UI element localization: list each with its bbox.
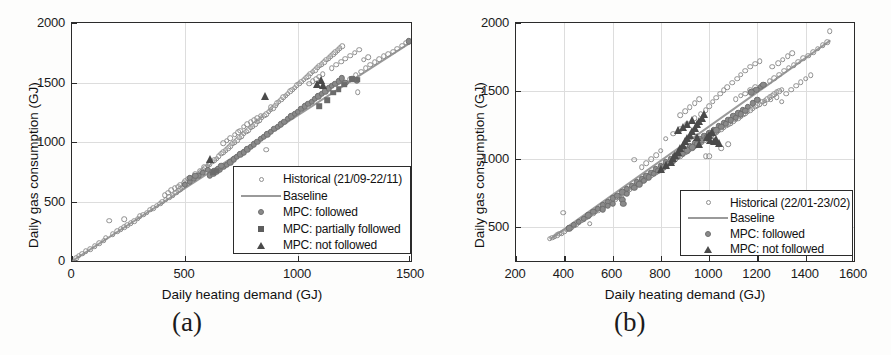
data-point-open-circle: [243, 129, 249, 135]
x-tick-label: 1600: [839, 266, 867, 281]
data-point-open-circle: [235, 130, 241, 136]
data-point-open-circle: [329, 65, 335, 71]
data-point-filled-circle: [711, 127, 717, 133]
data-point-open-circle: [639, 164, 645, 170]
data-point-filled-triangle: [715, 139, 723, 147]
legend-symbol: [239, 171, 283, 188]
data-point-open-circle: [285, 91, 291, 97]
data-point-filled-circle: [600, 206, 606, 212]
data-point-open-circle: [361, 57, 367, 63]
line-icon: [241, 195, 281, 197]
grid-line-vertical: [185, 23, 186, 261]
legend-row: MPC: followed: [686, 226, 846, 242]
line-icon: [688, 217, 728, 219]
x-tick: [661, 256, 662, 261]
data-point-filled-circle: [740, 107, 746, 113]
data-point-open-circle: [198, 169, 204, 175]
grid-line-horizontal: [72, 83, 411, 84]
data-point-open-circle: [323, 57, 329, 63]
grid-line-vertical: [613, 23, 614, 261]
data-point-open-circle: [721, 125, 727, 131]
data-point-open-circle: [236, 135, 242, 141]
data-point-open-circle: [227, 143, 233, 149]
y-tick: [516, 159, 521, 160]
data-point-filled-circle: [677, 150, 683, 156]
data-point-open-circle: [641, 177, 647, 183]
data-point-open-circle: [268, 107, 274, 113]
data-point-open-circle: [276, 99, 282, 105]
data-point-open-circle: [764, 96, 770, 102]
data-point-open-circle: [677, 113, 683, 119]
y-tick-label: 1000: [469, 151, 509, 166]
x-tick: [185, 256, 186, 261]
data-point-open-circle: [250, 123, 256, 129]
legend-label: Baseline: [730, 211, 774, 225]
data-point-open-circle: [165, 190, 171, 196]
data-point-filled-circle: [732, 114, 738, 120]
data-point-open-circle: [699, 139, 705, 145]
data-point-open-circle: [259, 115, 265, 121]
panel-b: Daily gas consumption (GJ) Daily heating…: [446, 0, 891, 355]
data-point-filled-circle: [745, 103, 751, 109]
y-tick: [72, 23, 77, 24]
data-point-filled-triangle: [674, 126, 682, 134]
data-point-open-circle: [244, 121, 250, 127]
data-point-open-circle: [627, 187, 633, 193]
data-point-open-circle: [598, 206, 604, 212]
y-tick: [72, 142, 77, 143]
data-point-filled-circle: [672, 152, 678, 158]
data-point-filled-triangle: [683, 120, 691, 128]
data-point-open-circle: [634, 182, 640, 188]
data-point-open-circle: [723, 123, 729, 129]
x-tick-label: 600: [601, 266, 622, 281]
data-point-open-circle: [743, 68, 749, 74]
grid-line-vertical: [564, 23, 565, 261]
data-point-open-circle: [716, 128, 722, 134]
filled-triangle-icon: [257, 242, 265, 249]
data-point-open-circle: [790, 50, 796, 56]
x-tick-label: 1500: [396, 266, 424, 281]
data-point-open-circle: [317, 74, 323, 80]
data-point-open-circle: [762, 100, 768, 106]
legend-row: MPC: not followed: [239, 237, 404, 254]
data-point-open-circle: [257, 117, 263, 123]
data-point-open-circle: [728, 120, 734, 126]
data-point-open-circle: [270, 105, 276, 111]
data-point-open-circle: [121, 217, 127, 223]
y-tick-label: 0: [25, 253, 65, 268]
data-point-open-circle: [221, 149, 227, 155]
data-point-open-circle: [241, 131, 247, 137]
data-point-filled-circle: [636, 181, 642, 187]
data-point-open-circle: [312, 67, 318, 73]
panel-a: Daily gas consumption (GJ) Daily heating…: [0, 0, 446, 355]
figure-container: Daily gas consumption (GJ) Daily heating…: [0, 0, 891, 355]
data-point-filled-circle: [619, 197, 625, 203]
data-point-open-circle: [261, 113, 267, 119]
y-tick: [72, 202, 77, 203]
data-point-filled-circle: [687, 143, 693, 149]
data-point-open-circle: [283, 93, 289, 99]
data-point-open-circle: [733, 117, 739, 123]
data-point-open-circle: [209, 159, 215, 165]
data-point-filled-circle: [713, 127, 719, 133]
data-point-open-circle: [347, 53, 353, 59]
data-point-open-circle: [793, 83, 799, 89]
data-point-open-circle: [698, 111, 704, 117]
data-point-open-circle: [774, 94, 780, 100]
data-point-open-circle: [653, 169, 659, 175]
data-point-open-circle: [762, 98, 768, 104]
data-point-open-circle: [251, 117, 257, 123]
data-point-open-circle: [587, 221, 593, 227]
open-circle-icon: [259, 177, 264, 182]
data-point-filled-circle: [737, 111, 743, 117]
data-point-open-circle: [648, 173, 654, 179]
data-point-open-circle: [290, 87, 296, 93]
data-point-open-circle: [248, 125, 254, 131]
data-point-open-circle: [317, 63, 323, 69]
x-tick-label: 400: [553, 266, 574, 281]
data-point-filled-circle: [701, 133, 707, 139]
grid-line-horizontal: [516, 159, 854, 160]
data-point-open-circle: [356, 47, 362, 53]
data-point-open-circle: [738, 72, 744, 78]
data-point-open-circle: [779, 99, 785, 105]
